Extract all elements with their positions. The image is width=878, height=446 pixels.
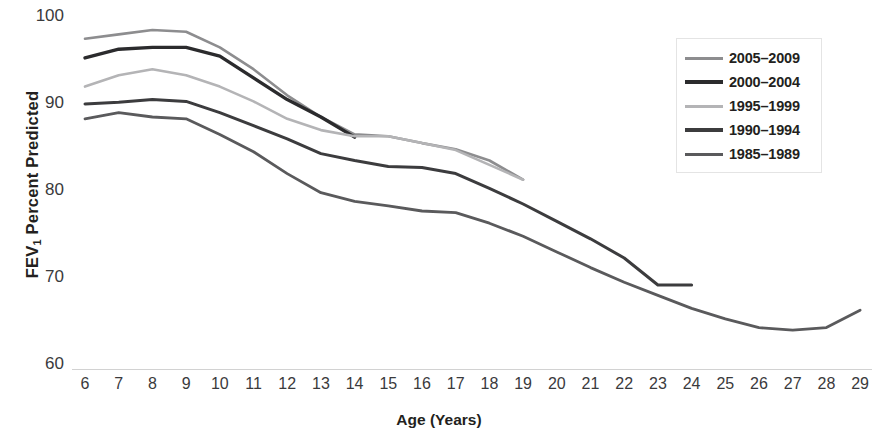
x-axis-tick-label: 28: [809, 375, 843, 393]
series-line: [85, 47, 355, 137]
x-axis-tick-label: 18: [472, 375, 506, 393]
legend-color-swatch: [685, 105, 723, 108]
legend-item-label: 2000–2004: [729, 74, 800, 90]
legend-color-swatch: [685, 57, 723, 60]
series-line: [85, 30, 523, 180]
x-axis-tick-label: 17: [439, 375, 473, 393]
legend: 2005–20092000–20041995–19991990–19941985…: [676, 38, 822, 173]
legend-item[interactable]: 2005–2009: [685, 46, 815, 70]
x-axis-tick-label: 14: [338, 375, 372, 393]
x-axis-tick-label: 25: [708, 375, 742, 393]
legend-item[interactable]: 1985–1989: [685, 142, 815, 166]
x-axis-tick-label: 22: [607, 375, 641, 393]
x-axis-tick-label: 20: [540, 375, 574, 393]
legend-item-label: 1995–1999: [729, 98, 800, 114]
x-axis-tick-label: 27: [776, 375, 810, 393]
chart-container: FEV1 Percent Predicted 10090807060 67891…: [0, 0, 878, 446]
x-axis-tick-label: 26: [742, 375, 776, 393]
x-axis-tick-label: 23: [641, 375, 675, 393]
legend-color-swatch: [685, 128, 723, 132]
series-line: [85, 69, 523, 180]
x-axis-tick-label: 9: [169, 375, 203, 393]
x-axis-tick-label: 7: [102, 375, 136, 393]
x-axis-line: [72, 369, 872, 370]
legend-item[interactable]: 1990–1994: [685, 118, 815, 142]
x-axis-tick-label: 6: [68, 375, 102, 393]
legend-item-label: 2005–2009: [729, 50, 800, 66]
legend-item-label: 1985–1989: [729, 146, 800, 162]
x-axis-tick-label: 21: [574, 375, 608, 393]
legend-item[interactable]: 2000–2004: [685, 70, 815, 94]
legend-color-swatch: [685, 153, 723, 156]
series-line: [85, 100, 692, 285]
x-axis-tick-label: 24: [675, 375, 709, 393]
legend-item-label: 1990–1994: [729, 122, 800, 138]
x-axis-tick-label: 10: [203, 375, 237, 393]
x-axis-tick-label: 29: [843, 375, 877, 393]
x-axis-tick-label: 8: [135, 375, 169, 393]
x-axis-tick-label: 13: [304, 375, 338, 393]
x-axis-tick-label: 15: [371, 375, 405, 393]
legend-item[interactable]: 1995–1999: [685, 94, 815, 118]
x-axis-title: Age (Years): [0, 411, 878, 429]
x-axis-tick-label: 12: [270, 375, 304, 393]
x-axis-tick-label: 19: [506, 375, 540, 393]
x-axis-tick-label: 16: [405, 375, 439, 393]
legend-color-swatch: [685, 80, 723, 84]
x-axis-tick-label: 11: [237, 375, 271, 393]
